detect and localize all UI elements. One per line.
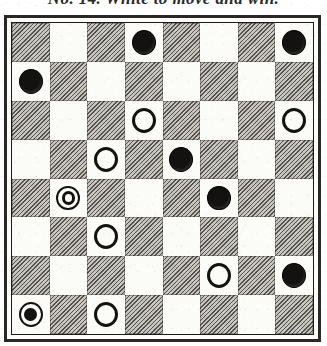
board-square-r5c6[interactable] xyxy=(200,179,238,218)
piece-white-man-r8c3[interactable] xyxy=(94,302,118,327)
board-square-r6c6[interactable] xyxy=(200,217,238,256)
piece-white-man-r6c3[interactable] xyxy=(94,224,118,249)
draughts-board[interactable] xyxy=(12,23,313,334)
board-square-r3c1[interactable] xyxy=(12,101,50,140)
board-square-r4c3[interactable] xyxy=(87,140,125,179)
board-square-r3c6[interactable] xyxy=(200,101,238,140)
piece-white-man-r7c6[interactable] xyxy=(207,263,231,288)
board-square-r5c7[interactable] xyxy=(238,179,276,218)
board-frame xyxy=(4,15,321,342)
board-square-r8c5[interactable] xyxy=(163,295,201,334)
piece-white-king-r5c2[interactable] xyxy=(56,186,80,211)
board-square-r8c6[interactable] xyxy=(200,295,238,334)
board-square-r3c2[interactable] xyxy=(50,101,88,140)
board-square-r1c7[interactable] xyxy=(238,23,276,62)
board-square-r1c8[interactable] xyxy=(275,23,313,62)
board-square-r7c6[interactable] xyxy=(200,256,238,295)
board-square-r2c1[interactable] xyxy=(12,62,50,101)
board-square-r6c3[interactable] xyxy=(87,217,125,256)
board-square-r8c2[interactable] xyxy=(50,295,88,334)
board-square-r5c1[interactable] xyxy=(12,179,50,218)
board-square-r2c5[interactable] xyxy=(163,62,201,101)
board-square-r3c5[interactable] xyxy=(163,101,201,140)
board-square-r5c5[interactable] xyxy=(163,179,201,218)
piece-black-king-r8c1[interactable] xyxy=(19,302,43,327)
board-square-r2c4[interactable] xyxy=(125,62,163,101)
board-square-r3c4[interactable] xyxy=(125,101,163,140)
piece-black-man-r7c8[interactable] xyxy=(282,263,306,288)
piece-black-man-r1c8[interactable] xyxy=(282,30,306,55)
board-square-r3c7[interactable] xyxy=(238,101,276,140)
board-square-r2c6[interactable] xyxy=(200,62,238,101)
board-square-r4c6[interactable] xyxy=(200,140,238,179)
board-square-r2c8[interactable] xyxy=(275,62,313,101)
piece-white-man-r3c8[interactable] xyxy=(282,108,306,133)
board-square-r3c8[interactable] xyxy=(275,101,313,140)
board-square-r6c5[interactable] xyxy=(163,217,201,256)
piece-white-man-r3c4[interactable] xyxy=(132,108,156,133)
board-square-r1c4[interactable] xyxy=(125,23,163,62)
board-square-r5c4[interactable] xyxy=(125,179,163,218)
board-square-r4c1[interactable] xyxy=(12,140,50,179)
board-square-r4c2[interactable] xyxy=(50,140,88,179)
board-square-r7c7[interactable] xyxy=(238,256,276,295)
diagram-caption: No. 14. White to move and win. xyxy=(48,0,279,9)
board-square-r8c3[interactable] xyxy=(87,295,125,334)
board-square-r4c7[interactable] xyxy=(238,140,276,179)
piece-black-man-r5c6[interactable] xyxy=(207,186,231,211)
board-square-r1c1[interactable] xyxy=(12,23,50,62)
board-square-r8c8[interactable] xyxy=(275,295,313,334)
board-square-r6c2[interactable] xyxy=(50,217,88,256)
board-square-r6c1[interactable] xyxy=(12,217,50,256)
board-square-r7c3[interactable] xyxy=(87,256,125,295)
piece-black-man-r2c1[interactable] xyxy=(19,69,43,94)
board-square-r2c3[interactable] xyxy=(87,62,125,101)
board-square-r1c2[interactable] xyxy=(50,23,88,62)
piece-black-man-r1c4[interactable] xyxy=(132,30,156,55)
board-square-r8c7[interactable] xyxy=(238,295,276,334)
board-square-r1c3[interactable] xyxy=(87,23,125,62)
board-frame-inner xyxy=(7,18,318,339)
board-square-r6c7[interactable] xyxy=(238,217,276,256)
piece-white-man-r4c3[interactable] xyxy=(94,147,118,172)
board-square-r7c5[interactable] xyxy=(163,256,201,295)
board-square-r5c2[interactable] xyxy=(50,179,88,218)
board-square-r6c4[interactable] xyxy=(125,217,163,256)
piece-black-man-r4c5[interactable] xyxy=(169,147,193,172)
board-square-r5c8[interactable] xyxy=(275,179,313,218)
board-square-r7c4[interactable] xyxy=(125,256,163,295)
diagram-caption-strip: No. 14. White to move and win. xyxy=(0,0,327,13)
board-square-r3c3[interactable] xyxy=(87,101,125,140)
board-square-r6c8[interactable] xyxy=(275,217,313,256)
board-square-r4c8[interactable] xyxy=(275,140,313,179)
board-square-r1c6[interactable] xyxy=(200,23,238,62)
board-square-r7c8[interactable] xyxy=(275,256,313,295)
board-square-r8c4[interactable] xyxy=(125,295,163,334)
board-square-r2c7[interactable] xyxy=(238,62,276,101)
board-square-r2c2[interactable] xyxy=(50,62,88,101)
board-square-r7c1[interactable] xyxy=(12,256,50,295)
board-square-r5c3[interactable] xyxy=(87,179,125,218)
board-square-r7c2[interactable] xyxy=(50,256,88,295)
board-square-r8c1[interactable] xyxy=(12,295,50,334)
board-square-r1c5[interactable] xyxy=(163,23,201,62)
board-square-r4c4[interactable] xyxy=(125,140,163,179)
board-square-r4c5[interactable] xyxy=(163,140,201,179)
board-border xyxy=(11,22,314,335)
